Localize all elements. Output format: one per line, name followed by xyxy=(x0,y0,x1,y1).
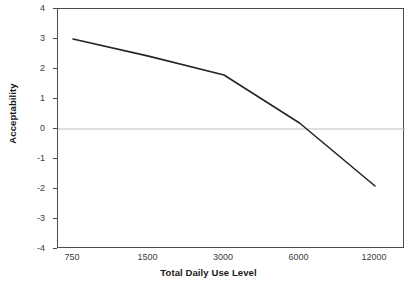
x-tick-label: 750 xyxy=(42,252,102,262)
y-tick-label: -2 xyxy=(37,184,45,193)
y-tick-mark xyxy=(53,248,57,249)
data-series-line xyxy=(73,39,375,186)
y-tick-label: 2 xyxy=(40,64,45,73)
plot-svg xyxy=(58,9,405,249)
x-tick-label: 12000 xyxy=(344,252,404,262)
x-tick-label: 6000 xyxy=(269,252,329,262)
x-tick-label: 1500 xyxy=(118,252,178,262)
y-tick-label: 0 xyxy=(40,124,45,133)
chart-container: 43210-1-2-3-4 Acceptability 750150030006… xyxy=(0,0,417,285)
y-axis-title: Acceptability xyxy=(7,54,18,174)
y-tick-label: 1 xyxy=(40,94,45,103)
y-tick-label: 3 xyxy=(40,34,45,43)
x-tick-label: 3000 xyxy=(193,252,253,262)
plot-area xyxy=(57,8,404,248)
y-tick-label: 4 xyxy=(40,4,45,13)
y-tick-label: -1 xyxy=(37,154,45,163)
x-axis-title: Total Daily Use Level xyxy=(0,267,417,278)
y-tick-label: -3 xyxy=(37,214,45,223)
